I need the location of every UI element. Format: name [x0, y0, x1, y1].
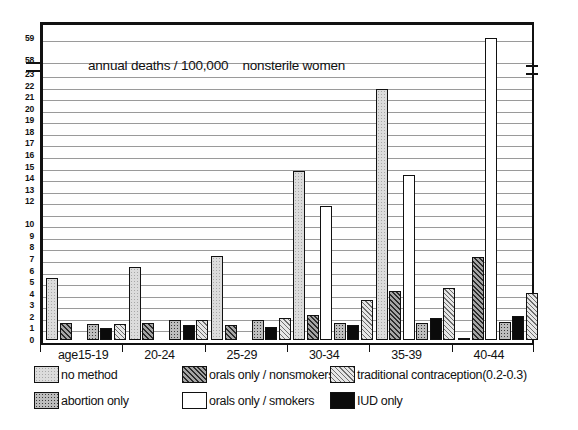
gridline	[43, 170, 532, 171]
y-axis-tick-label: 3	[29, 301, 34, 310]
x-axis-label: 30-34	[309, 348, 339, 362]
legend-swatch	[330, 366, 355, 383]
gridline	[43, 204, 532, 205]
y-axis-tick-label: 14	[25, 174, 34, 183]
y-axis-tick-label: 6	[29, 266, 34, 275]
x-axis-label: 25-29	[227, 348, 257, 362]
gridline	[43, 158, 532, 159]
legend-item: abortion only	[34, 392, 129, 409]
legend-item: orals only / smokers	[182, 392, 314, 409]
x-axis-label: age15-19	[58, 348, 108, 362]
y-axis-tick-label: 15	[25, 162, 34, 171]
y-axis-tick-label: 10	[25, 220, 34, 229]
legend-label: orals only / smokers	[209, 394, 314, 408]
x-axis-label: 35-39	[391, 348, 421, 362]
gridline	[43, 100, 532, 101]
legend-swatch	[34, 366, 59, 383]
bar	[512, 316, 524, 340]
x-axis-label: 20-24	[144, 348, 174, 362]
bar	[430, 318, 442, 340]
y-axis-tick-label: 59	[25, 34, 34, 43]
y-axis-tick-label: 0	[29, 336, 34, 345]
x-axis-labels: age15-1920-2425-2930-3435-3940-44	[0, 348, 578, 366]
bar	[334, 323, 346, 340]
y-axis-tick-label: 1	[29, 324, 34, 333]
legend-swatch	[330, 392, 355, 409]
bar	[443, 288, 455, 340]
bar	[225, 325, 237, 340]
legend-swatch	[182, 392, 207, 409]
gridline	[43, 285, 532, 286]
legend-swatch	[34, 392, 59, 409]
bar	[265, 327, 277, 340]
gridline	[43, 250, 532, 251]
gridline	[43, 297, 532, 298]
y-axis-tick-label: 20	[25, 104, 34, 113]
y-axis-tick-label: 16	[25, 151, 34, 160]
bar	[100, 328, 112, 340]
legend-label: traditional contraception(0.2-0.3)	[357, 368, 527, 382]
gridline	[43, 193, 532, 194]
y-axis-break-marker-right	[526, 65, 538, 75]
legend-swatch	[182, 366, 207, 383]
y-axis-tick-label: 22	[25, 81, 34, 90]
bar	[526, 293, 538, 340]
gridline	[43, 274, 532, 275]
y-axis-tick-label: 17	[25, 139, 34, 148]
bar	[376, 89, 388, 340]
gridline	[43, 89, 532, 90]
y-axis-tick-label: 9	[29, 232, 34, 241]
bar	[403, 175, 415, 340]
chart-legend: no methodorals only / nonsmokerstraditio…	[34, 366, 564, 422]
y-axis-tick-label: 18	[25, 128, 34, 137]
y-axis-tick-label: 5	[29, 278, 34, 287]
y-axis-tick-label: 12	[25, 197, 34, 206]
gridline	[43, 77, 532, 78]
y-axis-labels: 5958232221201918171615141312109876543210	[0, 22, 38, 345]
gridline	[43, 262, 532, 263]
bar	[129, 267, 141, 340]
legend-label: IUD only	[357, 394, 403, 408]
y-axis-tick-label: 7	[29, 255, 34, 264]
legend-item: no method	[34, 366, 117, 383]
bar	[87, 324, 99, 340]
y-axis-tick-label: 21	[25, 93, 34, 102]
legend-label: no method	[61, 368, 117, 382]
gridline	[43, 135, 532, 136]
legend-label: abortion only	[61, 394, 129, 408]
gridline	[43, 181, 532, 182]
bar	[416, 323, 428, 340]
y-axis-tick-label: 4	[29, 289, 34, 298]
legend-label: orals only / nonsmokers	[209, 368, 334, 382]
bar	[46, 278, 58, 340]
legend-item: orals only / nonsmokers	[182, 366, 334, 383]
bar	[293, 171, 305, 340]
bar	[142, 323, 154, 340]
x-axis-label: 40-44	[474, 348, 504, 362]
bar	[472, 257, 484, 340]
gridline	[43, 112, 532, 113]
bar	[196, 320, 208, 340]
bar	[211, 256, 223, 340]
bar	[183, 325, 195, 340]
bar	[347, 325, 359, 340]
bar	[320, 206, 332, 340]
gridline	[43, 123, 532, 124]
bar	[389, 291, 401, 340]
bar	[361, 300, 373, 340]
bar	[252, 320, 264, 340]
legend-item: traditional contraception(0.2-0.3)	[330, 366, 527, 383]
gridline	[43, 308, 532, 309]
legend-item: IUD only	[330, 392, 403, 409]
y-axis-tick-label: 2	[29, 313, 34, 322]
bar	[485, 38, 497, 340]
chart-root: 5958232221201918171615141312109876543210…	[0, 0, 578, 430]
bar	[169, 320, 181, 340]
y-axis-tick-label: 8	[29, 243, 34, 252]
y-axis-tick-label: 13	[25, 185, 34, 194]
bar	[499, 322, 511, 341]
bar	[279, 318, 291, 340]
gridline	[43, 216, 532, 217]
bar	[114, 324, 126, 340]
y-axis-tick-label: 19	[25, 116, 34, 125]
